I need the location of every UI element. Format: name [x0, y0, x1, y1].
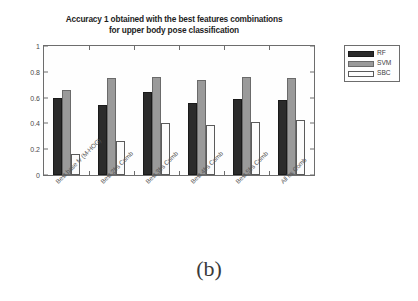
y-axis-tick-mark — [44, 71, 48, 72]
x-axis-tick-mark — [269, 171, 270, 175]
y-axis-tick-mark — [44, 46, 48, 47]
y-axis-tick-mark — [310, 175, 314, 176]
y-axis-tick-label: 0.6 — [30, 94, 40, 101]
y-axis-tick-mark — [44, 149, 48, 150]
x-axis-tick-mark — [134, 46, 135, 50]
legend-swatch-rf — [348, 51, 374, 57]
y-axis-tick-mark — [310, 46, 314, 47]
bar-group — [188, 46, 215, 175]
x-axis-tick-mark — [89, 46, 90, 50]
legend-label-svm: SVM — [377, 60, 391, 67]
y-axis-tick-label: 0.8 — [30, 68, 40, 75]
legend-swatch-svm — [348, 61, 374, 67]
x-axis-tick-mark — [179, 171, 180, 175]
y-axis-tick-mark — [310, 97, 314, 98]
bar-svm — [152, 77, 161, 175]
bar-svm — [107, 78, 116, 175]
chart-legend: RFSVMSBC — [344, 45, 400, 82]
x-axis-tick-mark — [134, 171, 135, 175]
y-axis-tick-mark — [44, 97, 48, 98]
y-axis-tick-mark — [310, 123, 314, 124]
y-axis-tick-label: 0 — [36, 172, 40, 179]
legend-label-sbc: SBC — [377, 70, 391, 77]
y-axis-tick-mark — [44, 123, 48, 124]
y-axis-tick-mark — [310, 149, 314, 150]
bar-group — [233, 46, 260, 175]
bar-group — [98, 46, 125, 175]
figure-caption: (b) — [0, 256, 418, 282]
bar-rf — [188, 103, 197, 175]
bar-rf — [278, 100, 287, 175]
legend-label-rf: RF — [377, 50, 386, 57]
y-axis-tick-mark — [310, 71, 314, 72]
bar-group — [278, 46, 305, 175]
y-axis-tick-label: 0.2 — [30, 146, 40, 153]
figure: Accuracy 1 obtained with the best featur… — [0, 0, 418, 301]
bar-group — [53, 46, 80, 175]
y-axis-tick-label: 1 — [36, 43, 40, 50]
y-axis-tick-mark — [44, 175, 48, 176]
x-axis-tick-mark — [179, 46, 180, 50]
bar-svm — [197, 80, 206, 175]
x-axis-tick-mark — [89, 171, 90, 175]
legend-entry-svm: SVM — [348, 59, 396, 68]
bar-svm — [287, 78, 296, 175]
bar-svm — [62, 90, 71, 175]
legend-entry-rf: RF — [348, 49, 396, 58]
chart-title: Accuracy 1 obtained with the best featur… — [38, 14, 310, 35]
bar-rf — [53, 98, 62, 175]
bar-rf — [233, 99, 242, 175]
y-axis-tick-label: 0.4 — [30, 120, 40, 127]
legend-swatch-sbc — [348, 71, 374, 77]
x-axis-tick-mark — [224, 171, 225, 175]
bar-group — [143, 46, 170, 175]
x-axis-tick-mark — [269, 46, 270, 50]
bar-rf — [143, 92, 152, 175]
legend-entry-sbc: SBC — [348, 69, 396, 78]
x-axis-tick-mark — [224, 46, 225, 50]
bar-svm — [242, 77, 251, 175]
